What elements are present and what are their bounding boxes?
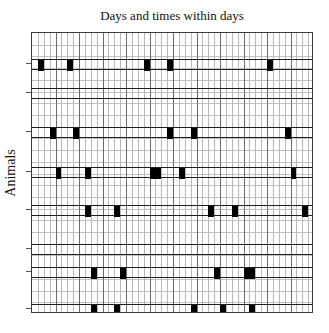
event-mark bbox=[50, 128, 56, 139]
page-title: Days and times within days bbox=[30, 8, 314, 23]
event-mark bbox=[120, 268, 126, 279]
animal-row bbox=[32, 88, 312, 99]
gridline-horizontal bbox=[32, 103, 312, 104]
event-mark bbox=[232, 206, 238, 217]
y-axis-label-container: Animals bbox=[0, 30, 22, 315]
event-mark bbox=[73, 128, 79, 139]
event-mark bbox=[114, 206, 120, 217]
actogram-figure: Days and times within days Animals bbox=[0, 0, 329, 333]
y-axis-label: Animals bbox=[3, 149, 19, 196]
event-mark bbox=[191, 305, 197, 313]
gridline-horizontal bbox=[32, 56, 312, 57]
event-mark bbox=[85, 206, 91, 217]
gridline-horizontal bbox=[32, 197, 312, 198]
animal-row bbox=[32, 59, 312, 70]
gridline-horizontal bbox=[32, 45, 312, 46]
animal-row bbox=[32, 127, 312, 138]
gridline-horizontal bbox=[32, 291, 312, 292]
event-mark bbox=[67, 60, 73, 71]
event-mark bbox=[150, 168, 162, 179]
event-mark bbox=[167, 60, 173, 71]
event-mark bbox=[85, 168, 91, 179]
event-mark bbox=[179, 168, 185, 179]
event-mark bbox=[191, 128, 197, 139]
animal-row bbox=[32, 267, 312, 278]
event-mark bbox=[267, 60, 273, 71]
event-mark bbox=[291, 168, 297, 179]
event-mark bbox=[208, 206, 214, 217]
event-mark bbox=[91, 268, 97, 279]
event-mark bbox=[302, 206, 308, 217]
gridline-horizontal bbox=[32, 115, 312, 116]
event-mark bbox=[214, 268, 220, 279]
event-mark bbox=[167, 128, 173, 139]
gridline-horizontal bbox=[32, 220, 312, 221]
animal-row bbox=[32, 304, 312, 313]
gridline-horizontal bbox=[32, 150, 312, 151]
event-mark bbox=[114, 305, 120, 313]
event-mark bbox=[220, 305, 226, 313]
gridline-horizontal bbox=[32, 185, 312, 186]
gridline-horizontal bbox=[32, 232, 312, 233]
gridline-horizontal bbox=[32, 80, 312, 81]
event-mark bbox=[56, 168, 62, 179]
gridline-horizontal bbox=[32, 279, 312, 280]
event-mark bbox=[144, 60, 150, 71]
gridline-horizontal bbox=[32, 162, 312, 163]
gridline-horizontal bbox=[32, 255, 312, 256]
event-mark bbox=[38, 60, 44, 71]
event-mark bbox=[244, 268, 256, 279]
event-mark bbox=[249, 305, 255, 313]
animal-row bbox=[32, 167, 312, 178]
animal-row bbox=[32, 244, 312, 255]
event-mark bbox=[285, 128, 291, 139]
event-mark bbox=[91, 305, 97, 313]
animal-row bbox=[32, 205, 312, 216]
plot-area bbox=[31, 32, 313, 313]
